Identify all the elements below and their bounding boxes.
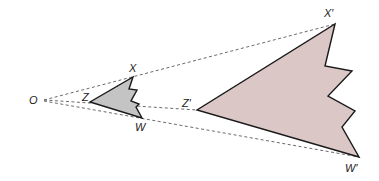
label-o: O <box>29 94 38 106</box>
label-x: X <box>128 62 137 74</box>
label-w-prime: W′ <box>345 162 358 174</box>
label-z-prime: Z′ <box>181 97 192 109</box>
dilation-diagram: O X Z W X′ Z′ W′ <box>0 0 379 181</box>
label-x-prime: X′ <box>323 7 334 19</box>
image-shape <box>197 24 359 157</box>
preimage-shape <box>90 77 142 118</box>
label-z: Z <box>81 91 90 103</box>
label-w: W <box>135 121 147 133</box>
